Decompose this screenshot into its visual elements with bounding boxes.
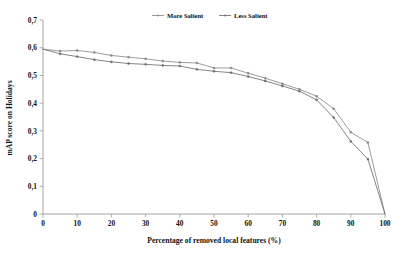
- legend-label-1: Less Salient: [234, 12, 268, 19]
- series-marker: [367, 158, 369, 160]
- series-marker: [213, 70, 215, 72]
- series-line-more-salient: [43, 49, 385, 214]
- x-tick-label: 100: [379, 219, 390, 228]
- y-tick-label: 0,4: [28, 99, 38, 108]
- series-marker: [93, 51, 95, 53]
- y-tick-label: 0,7: [28, 16, 38, 25]
- series-marker: [350, 140, 352, 142]
- y-tick-labels: 00,10,20,30,40,50,60,7: [28, 16, 38, 219]
- y-tick-label: 0,3: [28, 127, 38, 136]
- series-marker: [196, 68, 198, 70]
- legend-label-0: More Salient: [167, 12, 204, 19]
- series-marker: [247, 76, 249, 78]
- series-marker: [179, 61, 181, 63]
- axis-ticks: [40, 20, 386, 218]
- series-marker: [333, 108, 335, 110]
- x-axis-title: Percentage of removed local features (%): [147, 236, 281, 245]
- y-tick-label: 0,5: [28, 71, 38, 80]
- series-marker: [299, 90, 301, 92]
- series-marker: [59, 50, 61, 52]
- series-marker: [213, 67, 215, 69]
- series-marker: [76, 50, 78, 52]
- series-marker: [316, 99, 318, 101]
- y-tick-label: 0,2: [28, 154, 38, 163]
- x-tick-labels: 0102030405060708090100: [41, 219, 391, 228]
- series-marker: [264, 77, 266, 79]
- series-marker: [145, 58, 147, 60]
- series-marker: [196, 62, 198, 64]
- y-tick-label: 0: [33, 210, 37, 219]
- y-tick-label: 0,6: [28, 43, 38, 52]
- series-marker: [230, 67, 232, 69]
- series-marker: [179, 65, 181, 67]
- series-marker: [264, 80, 266, 82]
- series-marker: [93, 59, 95, 61]
- series-marker: [110, 61, 112, 63]
- legend-marker-1: [224, 15, 226, 17]
- chart-legend: More SalientLess Salient: [152, 12, 268, 19]
- line-chart-svg: 0102030405060708090100 00,10,20,30,40,50…: [0, 0, 412, 253]
- series-marker: [128, 63, 130, 65]
- series-marker: [59, 53, 61, 55]
- series-marker: [110, 55, 112, 57]
- series-marker: [281, 85, 283, 87]
- legend-marker-0: [157, 15, 159, 17]
- x-tick-label: 50: [210, 219, 218, 228]
- series-marker: [230, 72, 232, 74]
- series-marker: [128, 56, 130, 58]
- series-marker: [367, 142, 369, 144]
- y-axis-title: mAP score on Holidays: [5, 80, 14, 155]
- chart-figure: 0102030405060708090100 00,10,20,30,40,50…: [0, 0, 412, 253]
- x-tick-label: 0: [41, 219, 45, 228]
- series-marker: [350, 131, 352, 133]
- series-marker: [145, 63, 147, 65]
- series-marker: [333, 117, 335, 119]
- series-marker: [281, 83, 283, 85]
- x-tick-label: 90: [347, 219, 355, 228]
- x-tick-label: 20: [108, 219, 116, 228]
- series-marker: [162, 65, 164, 67]
- data-series: [43, 49, 385, 214]
- x-tick-label: 80: [313, 219, 321, 228]
- series-marker: [316, 95, 318, 97]
- x-tick-label: 30: [142, 219, 150, 228]
- x-tick-label: 70: [279, 219, 287, 228]
- y-tick-label: 0,1: [28, 182, 38, 191]
- x-tick-label: 10: [74, 219, 82, 228]
- x-tick-label: 60: [245, 219, 253, 228]
- series-line-less-salient: [43, 49, 385, 214]
- series-marker: [162, 60, 164, 62]
- series-marker: [76, 56, 78, 58]
- x-tick-label: 40: [176, 219, 184, 228]
- series-marker: [247, 72, 249, 74]
